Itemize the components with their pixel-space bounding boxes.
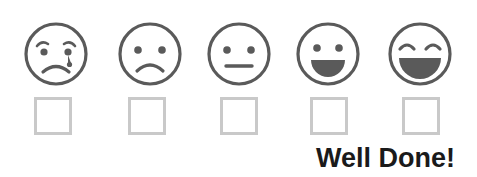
neutral-face-icon (205, 20, 273, 88)
checkbox-happy[interactable] (310, 97, 348, 135)
mood-rating-worksheet: Well Done! (0, 0, 477, 177)
well-done-message: Well Done! (316, 143, 455, 173)
checkbox-crying[interactable] (34, 97, 72, 135)
checkbox-neutral[interactable] (220, 97, 258, 135)
laughing-face-icon (386, 20, 454, 88)
crying-face-icon (22, 20, 90, 88)
happy-face-icon (294, 20, 362, 88)
checkbox-laughing[interactable] (402, 97, 440, 135)
checkbox-sad[interactable] (128, 97, 166, 135)
sad-face-icon (116, 20, 184, 88)
